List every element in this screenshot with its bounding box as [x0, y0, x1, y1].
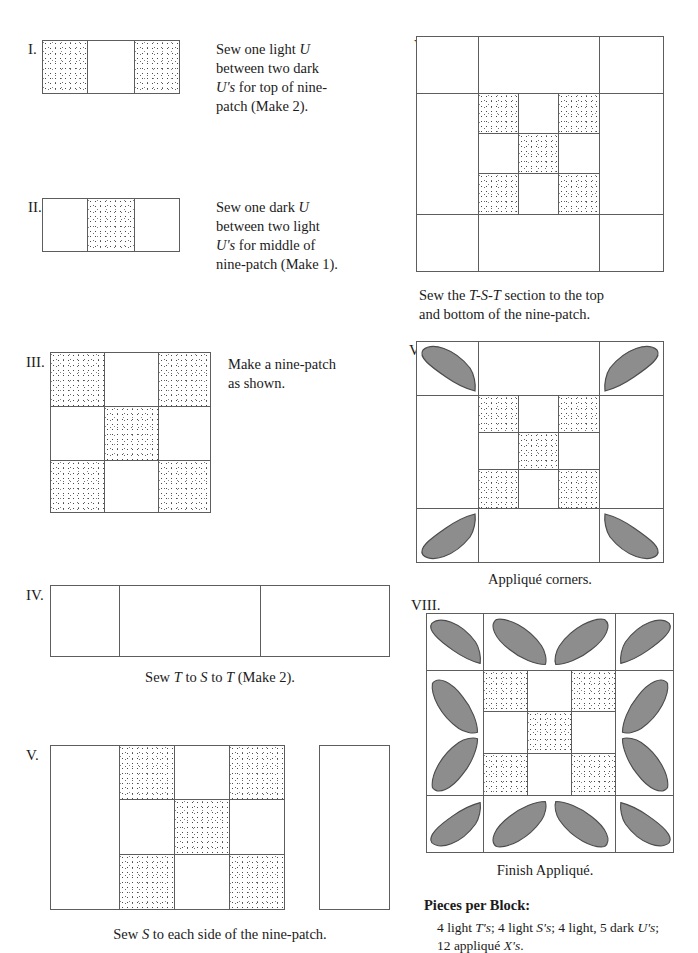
- applique-petal-icon: [429, 798, 483, 850]
- patch-light: [558, 432, 600, 470]
- block-corner-bl: [416, 214, 479, 272]
- patch-light: [483, 711, 528, 754]
- patch-dark: [158, 460, 211, 513]
- applique-petal-icon: [552, 798, 614, 850]
- patch-dark: [571, 670, 616, 712]
- patch-dark: [478, 395, 519, 433]
- patch-dark: [558, 469, 600, 509]
- block-edge-right: [599, 395, 664, 509]
- applique-petal-icon: [420, 511, 478, 561]
- patch-dark: [478, 173, 519, 215]
- applique-petal-icon: [619, 735, 671, 797]
- figure-step-4: [50, 585, 390, 657]
- patch-light: [50, 406, 105, 461]
- figure-step-7: [416, 341, 664, 563]
- patch-dark: [478, 469, 519, 509]
- patch-dark: [134, 40, 180, 94]
- block-corner-tl: [416, 36, 479, 94]
- block-edge-left: [416, 93, 479, 215]
- patch-dark: [42, 40, 88, 94]
- patch-s-left: [50, 745, 120, 910]
- patch-dark: [483, 670, 528, 712]
- applique-petal-icon: [429, 616, 483, 668]
- applique-petal-icon: [429, 674, 481, 736]
- step-caption-6: Sew the T-S-T section to the topand bott…: [419, 286, 689, 324]
- patch-dark: [229, 854, 285, 910]
- patch-light: [158, 406, 211, 461]
- figure-step-1: [42, 40, 180, 94]
- step-numeral-8: VIII.: [411, 598, 441, 613]
- patch-dark: [50, 460, 105, 513]
- applique-petal-icon: [420, 344, 478, 394]
- patch-light: [104, 352, 159, 407]
- patch-s-middle: [119, 585, 261, 657]
- patch-light: [42, 198, 88, 252]
- patch-dark: [558, 173, 600, 215]
- step-caption-1: Sew one light Ubetween two darkU's for t…: [216, 40, 386, 116]
- step-numeral-4: IV.: [26, 588, 44, 603]
- block-edge-left: [416, 395, 479, 509]
- patch-light: [87, 40, 135, 94]
- block-corner-br: [599, 214, 664, 272]
- block-edge-top: [478, 341, 600, 396]
- patch-dark: [174, 799, 230, 855]
- patch-light: [229, 799, 285, 855]
- figure-step-2: [42, 198, 180, 252]
- step-caption-7: Appliqué corners.: [416, 570, 664, 589]
- patch-dark: [571, 753, 616, 796]
- patch-light: [518, 173, 559, 215]
- patch-dark: [50, 352, 105, 407]
- step-caption-3: Make a nine-patchas shown.: [228, 355, 398, 393]
- patch-dark: [558, 395, 600, 433]
- patch-dark: [119, 854, 175, 910]
- patch-t-right: [260, 585, 390, 657]
- patch-light: [571, 711, 616, 754]
- applique-petal-icon: [487, 616, 549, 668]
- applique-petal-icon: [619, 674, 671, 736]
- patch-dark: [518, 432, 559, 470]
- instruction-page: I. Sew one light Ubetween two darkU's fo…: [0, 0, 698, 953]
- patch-dark: [158, 352, 211, 407]
- figure-step-3: [50, 352, 211, 513]
- applique-petal-icon: [618, 798, 672, 850]
- patch-dark: [527, 711, 572, 754]
- block-edge-right: [599, 93, 664, 215]
- patch-light: [174, 854, 230, 910]
- figure-step-6: [416, 36, 664, 272]
- step-caption-4: Sew T to S to T (Make 2).: [50, 668, 390, 687]
- patch-light: [518, 469, 559, 509]
- patch-t-left: [50, 585, 120, 657]
- patch-light: [119, 799, 175, 855]
- block-edge-bottom: [478, 214, 600, 272]
- figure-step-8: [426, 613, 674, 853]
- applique-petal-icon: [487, 798, 549, 850]
- patch-dark: [518, 133, 559, 174]
- patch-light: [518, 93, 559, 134]
- step-numeral-5: V.: [26, 748, 39, 763]
- patch-light: [174, 745, 230, 800]
- patch-dark: [478, 93, 519, 134]
- applique-petal-icon: [602, 344, 660, 394]
- block-edge-bottom: [478, 508, 600, 563]
- step-numeral-3: III.: [26, 355, 45, 370]
- patch-light: [478, 133, 519, 174]
- patch-light: [527, 753, 572, 796]
- patch-light: [518, 395, 559, 433]
- applique-petal-icon: [429, 735, 481, 797]
- applique-petal-icon: [602, 511, 660, 561]
- patch-light: [134, 198, 180, 252]
- pieces-per-block-title: Pieces per Block:: [424, 897, 530, 914]
- patch-dark: [104, 406, 159, 461]
- patch-dark: [87, 198, 135, 252]
- patch-light: [527, 670, 572, 712]
- pieces-per-block-body: 4 light T's; 4 light S's; 4 light, 5 dar…: [437, 919, 698, 953]
- patch-light: [478, 432, 519, 470]
- block-corner-tr: [599, 36, 664, 94]
- applique-petal-icon: [618, 616, 672, 668]
- patch-s-right: [319, 745, 390, 910]
- patch-light: [104, 460, 159, 513]
- patch-dark: [119, 745, 175, 800]
- patch-dark: [483, 753, 528, 796]
- step-numeral-2: II.: [28, 200, 42, 215]
- step-caption-2: Sew one dark Ubetween two lightU's for m…: [216, 198, 391, 274]
